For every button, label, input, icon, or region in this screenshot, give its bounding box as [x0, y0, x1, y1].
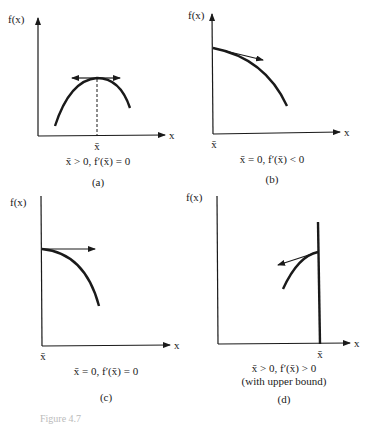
panel-c-y-label: f(x) [10, 197, 27, 208]
panel-a-x-axis [38, 135, 165, 136]
panel-c-x-label: x [174, 340, 180, 351]
figure-caption: Figure 4.7 [40, 413, 81, 424]
panel-c-graph [41, 196, 170, 346]
panel-b-tangent [213, 48, 263, 60]
panel-d-condition-note: (with upper bound) [242, 376, 327, 387]
panel-d-y-axis [217, 196, 218, 344]
panel-b-x-axis [213, 132, 340, 134]
panel-c-x-axis [42, 345, 170, 346]
panel-d-panel-label: (d) [278, 394, 291, 405]
panel-c-y-axis [41, 196, 42, 346]
panel-b-panel-label: (b) [266, 174, 279, 185]
panel-a-curve [55, 78, 130, 126]
panel-d-x-label: x [354, 338, 360, 349]
panel-b-graph [212, 14, 340, 134]
panel-d-condition: x̄ > 0, f′(x̄) > 0 [252, 363, 316, 374]
panel-a-condition: x̄ > 0, f′(x̄) = 0 [66, 156, 130, 167]
panel-b-y-label: f(x) [188, 10, 205, 21]
panel-a-graph [38, 18, 165, 136]
panel-a-point-label: x̄ [94, 141, 100, 152]
panel-d-graph [217, 196, 350, 344]
panel-b-y-axis [212, 14, 213, 134]
panel-a-panel-label: (a) [92, 177, 104, 188]
panel-b-x-label: x [344, 127, 350, 138]
panel-d-upper-bound [318, 222, 320, 344]
panel-c-panel-label: (c) [100, 392, 112, 403]
panel-a-y-label: f(x) [8, 14, 25, 25]
panel-d-point-label: x̄ [317, 349, 323, 360]
panel-c-curve [42, 249, 99, 306]
panel-b-condition: x̄ = 0, f′(x̄) < 0 [240, 154, 304, 165]
panel-a-x-label: x [169, 130, 175, 141]
panel-d-x-axis [218, 343, 350, 344]
panel-c-point-label: x̄ [40, 351, 46, 362]
panel-b-point-label: x̄ [211, 139, 217, 150]
panel-d-y-label: f(x) [186, 192, 203, 203]
panel-c-condition: x̄ = 0, f′(x̄) = 0 [74, 366, 138, 377]
